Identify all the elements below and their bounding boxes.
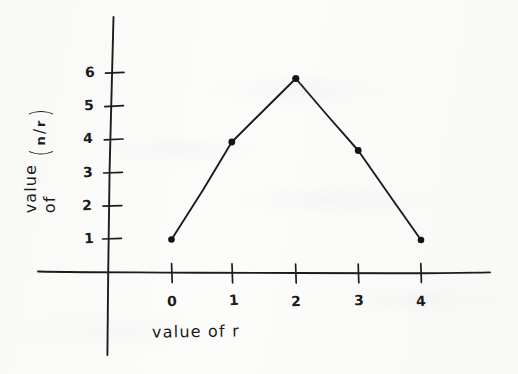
hand-drawn-chart-page: 6 5 4 3 2 1 0 1 2 3 4 value of r value o… xyxy=(0,0,518,374)
y-axis-title-wrapper: value of ( n / r ) xyxy=(16,60,64,260)
y-tick-label-4: 4 xyxy=(83,130,94,146)
x-tick-label-3: 3 xyxy=(354,292,365,308)
y-tick-1 xyxy=(103,238,122,239)
data-point-markers xyxy=(168,75,424,243)
x-tick-3 xyxy=(358,264,359,283)
y-axis-line xyxy=(107,17,113,355)
y-tick-label-6: 6 xyxy=(85,64,96,81)
y-tick-label-3: 3 xyxy=(83,164,94,181)
x-tick-0 xyxy=(172,264,173,283)
binom-fraction: n / r xyxy=(31,118,49,146)
chart-plot-area xyxy=(0,0,518,374)
x-tick-label-4: 4 xyxy=(416,293,427,310)
y-tick-2 xyxy=(103,206,122,207)
binomial-coefficient-symbol: ( n / r ) xyxy=(29,107,51,158)
data-point-r0 xyxy=(168,236,175,243)
binom-numerator: n xyxy=(33,135,48,145)
x-tick-4 xyxy=(421,264,422,283)
data-point-r4 xyxy=(418,237,425,244)
data-series-line xyxy=(172,79,422,241)
x-tick-2 xyxy=(296,264,297,283)
y-tick-label-1: 1 xyxy=(84,230,95,246)
y-axis-title: value of ( n / r ) xyxy=(21,107,59,214)
y-tick-3 xyxy=(104,172,123,173)
x-tick-label-0: 0 xyxy=(167,293,178,309)
binom-open-paren: ( xyxy=(29,148,51,156)
x-tick-label-1: 1 xyxy=(228,292,239,309)
binom-close-paren: ) xyxy=(29,108,51,116)
data-point-r2 xyxy=(292,75,299,82)
binom-denominator: r xyxy=(33,119,48,127)
x-tick-1 xyxy=(232,264,233,283)
x-tick-label-2: 2 xyxy=(291,293,302,309)
x-axis-title: value of r xyxy=(152,321,240,341)
binom-divider: / xyxy=(31,128,49,134)
y-tick-4 xyxy=(104,139,123,140)
y-tick-label-2: 2 xyxy=(82,197,93,213)
data-point-r1 xyxy=(228,139,235,146)
y-axis-title-text: value of xyxy=(21,164,59,213)
y-tick-label-5: 5 xyxy=(84,97,95,113)
data-point-r3 xyxy=(355,147,362,154)
y-tick-6 xyxy=(106,72,125,73)
x-axis-line xyxy=(38,272,490,274)
y-tick-5 xyxy=(105,106,124,107)
